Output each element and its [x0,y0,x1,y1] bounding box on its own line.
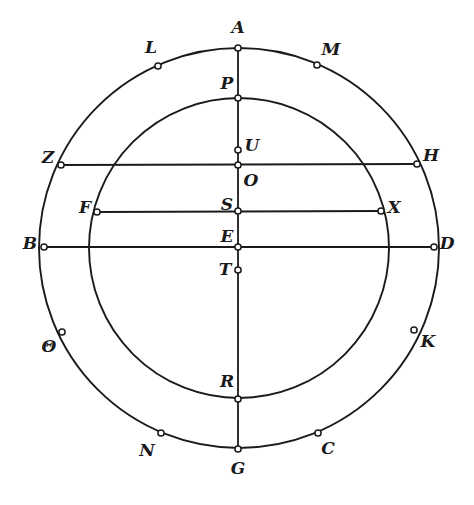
diagram-canvas [0,0,474,505]
point-label-a: A [231,19,244,36]
point-marker-o[interactable] [235,162,241,168]
point-label-n: N [139,442,155,459]
point-marker-e[interactable] [235,244,241,250]
point-label-z: Z [42,149,54,166]
point-label-o: O [244,172,259,189]
point-label-h: H [423,147,439,164]
point-marker-b[interactable] [41,244,47,250]
point-marker-h[interactable] [414,161,420,167]
point-label-s: S [221,196,233,213]
point-label-b: B [23,235,37,252]
point-marker-d[interactable] [431,244,437,250]
point-label-u: U [245,137,260,154]
point-label-r: R [220,373,234,390]
point-label-m: M [322,41,341,58]
point-marker-s[interactable] [235,208,241,214]
geometric-diagram-figure: ALMPUZHOFSXBEDTΘKRNCG [0,0,474,505]
point-marker-l[interactable] [155,63,161,69]
point-label-x: X [387,199,400,216]
point-marker-a[interactable] [235,45,241,51]
point-marker-x[interactable] [378,208,384,214]
point-label-theta: Θ [42,338,57,355]
point-label-p: P [221,75,234,92]
point-label-e: E [221,228,234,245]
point-label-f: F [79,199,91,216]
point-marker-n[interactable] [158,430,164,436]
point-marker-g[interactable] [235,446,241,452]
point-marker-c[interactable] [315,430,321,436]
point-marker-p[interactable] [235,95,241,101]
point-marker-u[interactable] [235,147,241,153]
point-marker-z[interactable] [58,162,64,168]
point-label-l: L [145,39,157,56]
point-label-g: G [231,460,246,477]
point-marker-f[interactable] [94,209,100,215]
point-marker-m[interactable] [314,62,320,68]
point-marker-k[interactable] [411,327,417,333]
point-marker-t[interactable] [235,267,241,273]
point-label-k: K [421,333,436,350]
point-marker-r[interactable] [235,396,241,402]
point-label-d: D [440,235,455,252]
point-label-c: C [321,440,335,457]
point-label-t: T [219,261,232,278]
point-marker-theta[interactable] [59,329,65,335]
